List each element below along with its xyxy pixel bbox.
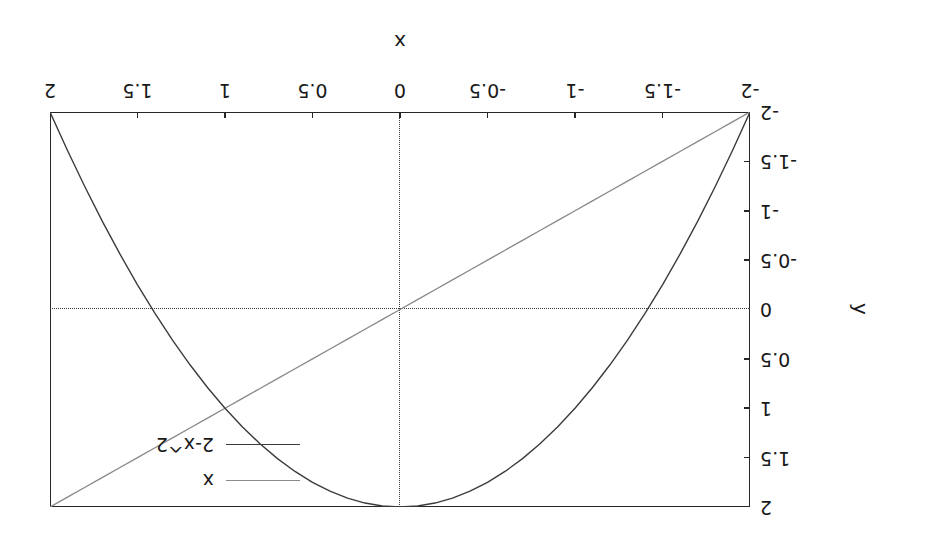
y-tick-label: 1: [760, 399, 814, 418]
x-tick-label: 2: [44, 81, 56, 100]
x-tick-label: 0.5: [297, 81, 327, 100]
y-tick-label: 0: [760, 300, 814, 319]
x-tick-label: -1: [566, 81, 585, 100]
legend-item[interactable]: 2-x^2: [100, 427, 300, 463]
legend-line-swatch: [226, 481, 300, 482]
x-tick-label: 0: [394, 81, 406, 100]
x-axis-title: x: [50, 32, 750, 52]
y-tick-label: 0.5: [760, 349, 814, 368]
y-axis-title: y: [849, 112, 873, 507]
x-tick-label: -1.5: [644, 81, 681, 100]
y-tick-label: 2: [760, 498, 814, 517]
x-tick-label: -2: [741, 81, 760, 100]
x-tick-label: -0.5: [469, 81, 506, 100]
legend-item[interactable]: x: [100, 463, 300, 499]
chart-figure: -2-1.5-1-0.500.511.52 -2-1.5-1-0.500.511…: [0, 0, 935, 544]
x-tick-label: 1: [219, 81, 231, 100]
y-tick-label: -1.5: [760, 152, 814, 171]
chart-legend: x2-x^2: [100, 427, 300, 499]
x-tick-label: 1.5: [122, 81, 152, 100]
y-tick-label: -0.5: [760, 251, 814, 270]
x-axis-title-text: x: [394, 30, 406, 54]
legend-item-label: 2-x^2: [156, 436, 214, 455]
y-axis-title-text: y: [851, 304, 871, 316]
legend-line-swatch: [226, 445, 300, 446]
y-tick-label: 1.5: [760, 448, 814, 467]
legend-item-label: x: [203, 472, 214, 491]
rotated-figure-wrapper: -2-1.5-1-0.500.511.52 -2-1.5-1-0.500.511…: [0, 0, 935, 544]
y-tick-label: -2: [760, 103, 814, 122]
y-tick-label: -1: [760, 201, 814, 220]
